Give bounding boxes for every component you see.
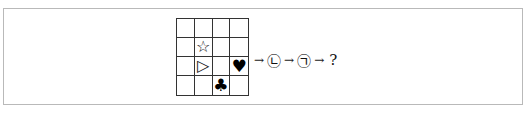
grid-cell (230, 19, 248, 38)
grid-cell (177, 38, 195, 57)
symbol-grid: ☆ ▷ ♥ ♣ (176, 18, 249, 96)
grid-cell (213, 38, 231, 57)
arrow-right-icon: → (314, 53, 324, 67)
star-outline-icon: ☆ (195, 38, 213, 57)
grid-cell (195, 19, 213, 38)
grid-cell (230, 38, 248, 57)
transformation-sequence: → ㉡ → ㉠ → ? (254, 50, 337, 70)
grid-cell (230, 76, 248, 95)
arrow-right-icon: → (284, 53, 294, 67)
heart-filled-icon: ♥ (230, 57, 248, 76)
arrow-right-icon: → (254, 53, 264, 67)
step-2-symbol: ㉠ (297, 50, 311, 70)
grid-cell (177, 76, 195, 95)
grid-cell (213, 19, 231, 38)
step-1-symbol: ㉡ (267, 50, 281, 70)
triangle-right-outline-icon: ▷ (195, 57, 213, 76)
grid-cell (177, 57, 195, 76)
grid-cell (195, 76, 213, 95)
grid-cell (177, 19, 195, 38)
result-question-mark: ? (329, 51, 337, 69)
club-filled-icon: ♣ (213, 76, 231, 95)
grid-cell (213, 57, 231, 76)
